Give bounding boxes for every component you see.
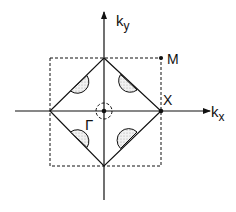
gamma-label: Γ [85, 116, 93, 133]
brillouin-zone-diagram: ky kx M X Γ [0, 0, 236, 212]
m-point [159, 56, 163, 60]
x-label: X [163, 92, 173, 108]
pocket-lower-right [117, 129, 137, 149]
gamma-point [102, 109, 107, 114]
pocket-upper-left [71, 76, 89, 94]
x-point [159, 109, 164, 114]
ky-label: ky [116, 12, 130, 33]
m-label: M [167, 51, 179, 67]
kx-label: kx [211, 103, 225, 124]
pocket-upper-right [119, 75, 137, 93]
